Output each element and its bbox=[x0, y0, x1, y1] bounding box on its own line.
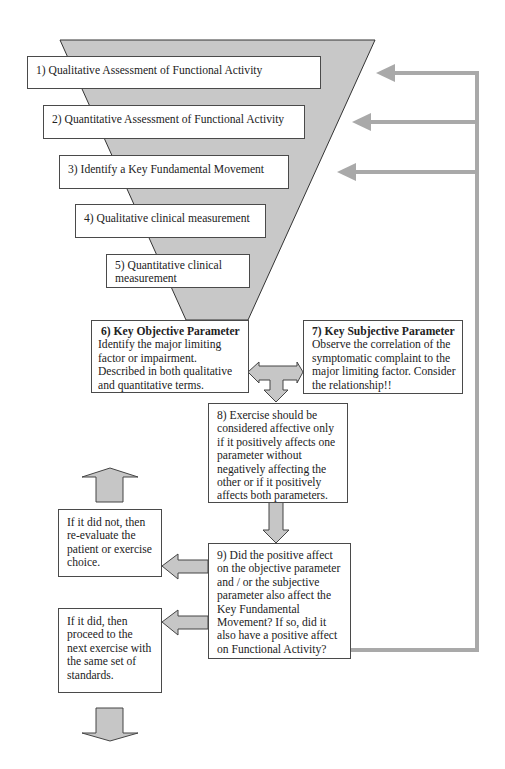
outcome-did-not-text: If it did not, then re-evaluate the pati… bbox=[67, 516, 152, 569]
step-1-qualitative-functional-assessment: 1) Qualitative Assessment of Functional … bbox=[27, 56, 321, 89]
step-5-label: 5) Quantitative clinical measurement bbox=[115, 259, 222, 285]
step-2-label: 2) Quantitative Assessment of Functional… bbox=[52, 113, 284, 126]
step-9-text: 9) Did the positive affect on the object… bbox=[217, 549, 340, 656]
step-9-evaluation-question: 9) Did the positive affect on the object… bbox=[208, 543, 351, 659]
up-arrow-icon bbox=[82, 468, 138, 502]
step-6-key-objective-parameter: 6) Key Objective Parameter Identify the … bbox=[91, 320, 249, 393]
down-arrow-8-to-9-icon bbox=[263, 502, 289, 543]
step-6-body: Identify the major limiting factor or im… bbox=[98, 338, 242, 392]
step-4-qualitative-clinical-measurement: 4) Qualitative clinical measurement bbox=[75, 204, 266, 238]
outcome-did-text: If it did, then proceed to the next exer… bbox=[67, 615, 151, 682]
step-7-key-subjective-parameter: 7) Key Subjective Parameter Observe the … bbox=[303, 320, 463, 394]
step-6-title: 6) Key Objective Parameter bbox=[98, 325, 242, 338]
left-arrow-to-did-not-icon bbox=[162, 554, 208, 579]
step-3-label: 3) Identify a Key Fundamental Movement bbox=[68, 163, 264, 176]
outcome-did: If it did, then proceed to the next exer… bbox=[58, 608, 162, 693]
feedback-arrow-1-icon bbox=[376, 64, 395, 82]
outcome-did-not: If it did not, then re-evaluate the pati… bbox=[58, 509, 162, 577]
step-8-text: 8) Exercise should be considered affecti… bbox=[217, 409, 335, 502]
feedback-arrow-2-icon bbox=[352, 113, 371, 131]
t-junction-arrow-icon bbox=[248, 362, 303, 402]
step-3-key-fundamental-movement: 3) Identify a Key Fundamental Movement bbox=[59, 155, 289, 189]
feedback-arrow-3-icon bbox=[337, 163, 356, 181]
left-arrow-to-did-icon bbox=[162, 610, 208, 635]
step-8-exercise-criteria: 8) Exercise should be considered affecti… bbox=[208, 403, 348, 503]
down-arrow-bottom-icon bbox=[82, 708, 138, 741]
step-5-quantitative-clinical-measurement: 5) Quantitative clinical measurement bbox=[106, 254, 250, 288]
step-7-title: 7) Key Subjective Parameter bbox=[312, 325, 456, 338]
step-1-label: 1) Qualitative Assessment of Functional … bbox=[36, 64, 262, 77]
step-4-label: 4) Qualitative clinical measurement bbox=[84, 212, 250, 225]
step-7-body: Observe the correlation of the symptomat… bbox=[312, 338, 456, 392]
step-2-quantitative-functional-assessment: 2) Quantitative Assessment of Functional… bbox=[43, 105, 305, 139]
